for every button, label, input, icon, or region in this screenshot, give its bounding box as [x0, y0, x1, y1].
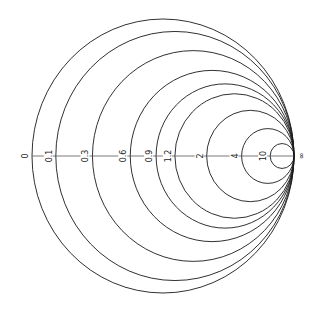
label-infinity: ∞: [297, 153, 306, 160]
label-r-0-3: 0.3: [80, 147, 90, 165]
label-r-4: 4: [230, 152, 240, 160]
label-r-2: 2: [195, 152, 205, 160]
resistance-label-text: 0.9: [145, 150, 154, 163]
resistance-label-text: 4: [231, 153, 240, 158]
smith-chart: 00.10.30.60.91.22410∞: [0, 0, 319, 311]
resistance-label-text: 2: [196, 153, 205, 158]
label-r-10: 10: [258, 150, 268, 163]
resistance-label-text: 10: [259, 151, 268, 161]
label-r-0-1: 0.1: [44, 147, 54, 165]
resistance-label-text: 0.1: [45, 150, 54, 163]
label-r-0-9: 0.9: [144, 147, 154, 165]
label-r-1-2: 1.2: [163, 147, 173, 165]
label-r-0-6: 0.6: [118, 147, 128, 165]
resistance-label-text: 0.6: [119, 150, 128, 163]
label-r-0: 0: [20, 152, 30, 160]
resistance-label-text: 1.2: [164, 150, 173, 163]
infinity-label-text: ∞: [297, 153, 306, 160]
resistance-label-text: 0: [21, 153, 30, 158]
resistance-label-text: 0.3: [81, 150, 90, 163]
